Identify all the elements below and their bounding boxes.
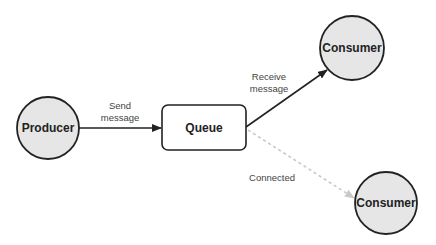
edge-label-receive: Receive xyxy=(252,71,286,82)
node-label-consumer-2: Consumer xyxy=(356,196,416,210)
node-consumer-1[interactable]: Consumer xyxy=(320,16,384,80)
edge-label-receive-message: message xyxy=(250,83,289,94)
edge-label-connected: Connected xyxy=(249,172,295,183)
edge-receive-message: Receive message xyxy=(246,70,327,127)
edge-label-send: Send xyxy=(109,100,131,111)
node-producer[interactable]: Producer xyxy=(17,97,79,159)
edge-connected: Connected xyxy=(248,130,354,198)
node-queue[interactable]: Queue xyxy=(162,105,246,150)
edge-send-message: Send message xyxy=(79,100,161,128)
message-queue-diagram: Send message Receive message Connected P… xyxy=(0,0,436,245)
node-label-queue: Queue xyxy=(185,121,223,135)
node-label-consumer-1: Consumer xyxy=(322,41,382,55)
node-label-producer: Producer xyxy=(22,121,75,135)
edge-label-message: message xyxy=(101,112,140,123)
node-consumer-2[interactable]: Consumer xyxy=(355,172,417,234)
